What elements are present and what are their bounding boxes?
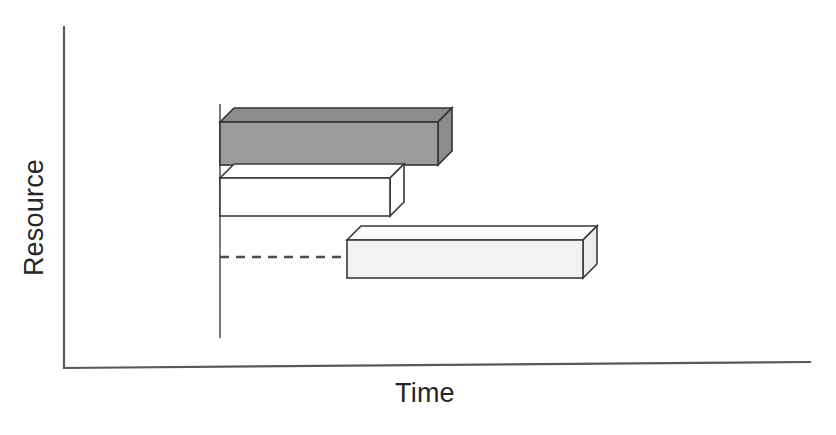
x-axis-label: Time [395,378,455,409]
bar-top-face [220,108,452,122]
gantt-chart-figure: Resource Time [0,0,836,435]
gantt-bar[interactable] [220,108,452,165]
bar-front-face [347,240,583,278]
gantt-bar[interactable] [220,164,404,216]
bar-front-face [220,178,390,216]
bar-top-face [347,226,597,240]
y-axis-label: Resource [0,0,70,435]
bar-front-face [220,122,438,165]
gantt-bar[interactable] [347,226,597,278]
chart-canvas [0,0,836,435]
bar-top-face [220,164,404,178]
y-axis-label-text: Resource [20,159,51,276]
horizontal-axis-line [64,362,810,368]
bar-group [220,108,597,278]
